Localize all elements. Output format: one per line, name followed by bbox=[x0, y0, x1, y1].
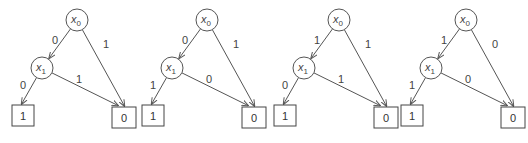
label-child-to-leaf-0: 1 bbox=[338, 73, 344, 85]
label-root-to-child: 0 bbox=[52, 34, 58, 46]
child-node: x1 bbox=[420, 57, 442, 79]
root-node: x0 bbox=[328, 9, 350, 31]
leaf-left-value: 1 bbox=[282, 110, 288, 122]
label-child-to-leaf-0: 1 bbox=[76, 73, 82, 85]
edge-child-to-leaf-0 bbox=[314, 73, 380, 106]
leaf-left: 1 bbox=[274, 105, 296, 126]
diagram-1: 0101x0x110 bbox=[12, 9, 136, 128]
label-child-to-leaf-0: 0 bbox=[206, 73, 212, 85]
leaf-right-value: 0 bbox=[251, 112, 257, 124]
edge-child-to-leaf-0 bbox=[52, 73, 118, 106]
diagram-4: 1010x0x110 bbox=[401, 9, 525, 128]
leaf-left: 1 bbox=[12, 105, 34, 126]
label-root-to-leaf-0: 1 bbox=[365, 38, 371, 50]
child-node: x1 bbox=[31, 57, 53, 79]
label-root-to-leaf-0: 1 bbox=[103, 38, 109, 50]
decision-diagrams: 0101x0x1100110x0x1101101x0x1101010x0x110 bbox=[0, 0, 528, 143]
leaf-left: 1 bbox=[142, 105, 164, 126]
root-node: x0 bbox=[455, 9, 477, 31]
edge-child-to-leaf-0 bbox=[182, 73, 248, 106]
label-root-to-child: 1 bbox=[441, 34, 447, 46]
leaf-left-value: 1 bbox=[150, 110, 156, 122]
leaf-left: 1 bbox=[401, 105, 423, 126]
label-root-to-leaf-0: 1 bbox=[233, 38, 239, 50]
diagram-3: 1101x0x110 bbox=[274, 9, 398, 128]
label-root-to-child: 1 bbox=[314, 34, 320, 46]
label-child-to-leaf-0: 0 bbox=[465, 73, 471, 85]
root-node: x0 bbox=[66, 9, 88, 31]
leaf-right-value: 0 bbox=[383, 112, 389, 124]
child-node: x1 bbox=[293, 57, 315, 79]
label-child-to-leaf-1: 1 bbox=[150, 79, 156, 91]
leaf-right: 0 bbox=[374, 107, 398, 128]
leaf-right: 0 bbox=[112, 107, 136, 128]
leaf-right-value: 0 bbox=[510, 112, 516, 124]
diagram-2: 0110x0x110 bbox=[142, 9, 266, 128]
root-node: x0 bbox=[196, 9, 218, 31]
leaf-left-value: 1 bbox=[20, 110, 26, 122]
leaf-right: 0 bbox=[242, 107, 266, 128]
label-root-to-leaf-0: 0 bbox=[492, 38, 498, 50]
leaf-right-value: 0 bbox=[121, 112, 127, 124]
label-child-to-leaf-1: 0 bbox=[282, 79, 288, 91]
leaf-right: 0 bbox=[501, 107, 525, 128]
leaf-left-value: 1 bbox=[409, 110, 415, 122]
label-root-to-child: 0 bbox=[182, 34, 188, 46]
child-node: x1 bbox=[161, 57, 183, 79]
label-child-to-leaf-1: 0 bbox=[20, 79, 26, 91]
label-child-to-leaf-1: 1 bbox=[409, 79, 415, 91]
edge-child-to-leaf-0 bbox=[441, 73, 507, 106]
